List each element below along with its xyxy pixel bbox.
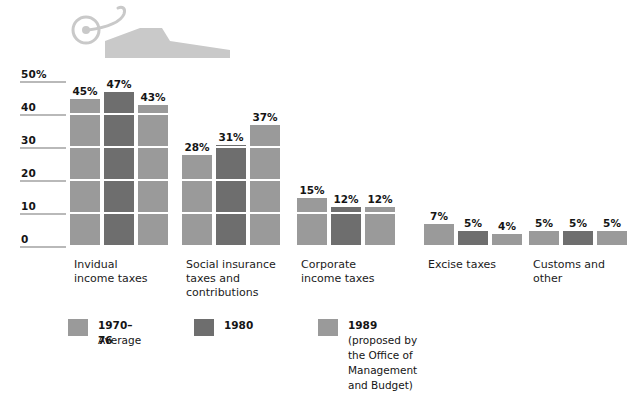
legend-swatch [318,319,338,336]
bar[interactable]: 15% [297,198,327,248]
bar-segment [529,231,559,246]
bar-segment [182,214,212,245]
bar[interactable]: 7% [424,224,454,247]
bar-segment [182,155,212,179]
bar-value-label: 12% [333,194,358,205]
bar[interactable]: 28% [182,155,212,247]
bar-segment [70,181,100,212]
bar[interactable]: 45% [70,99,100,248]
bar-segment [250,148,280,179]
y-axis-tick-label: 50% [21,68,47,80]
legend-label: 1980 [224,318,253,333]
bar-segment [216,181,246,212]
bar-value-label: 31% [218,132,243,143]
bar-segment [365,207,395,212]
bar-segment [216,145,246,146]
bar[interactable]: 12% [365,207,395,247]
bar-value-label: 15% [299,185,324,196]
bar-segment [331,207,361,212]
category-label: Social insurance taxes and contributions [186,258,276,300]
y-axis-tick-label: 10 [21,200,36,212]
legend-swatch [194,319,214,336]
bar-segment [331,214,361,245]
bar-value-label: 7% [430,211,448,222]
bar-segment [138,214,168,245]
bar-segment [216,148,246,179]
bar-segment [70,99,100,114]
bar[interactable]: 4% [492,234,522,247]
bar[interactable]: 5% [563,231,593,248]
bar-value-label: 47% [106,79,131,90]
bar-segment [138,181,168,212]
legend-label: 1989 [348,318,377,333]
bar-value-label: 28% [184,142,209,153]
bar-segment [138,148,168,179]
y-axis-tick-rule [20,147,66,149]
y-axis-tick-rule [20,213,66,215]
bar-segment [70,148,100,179]
bar[interactable]: 12% [331,207,361,247]
bar[interactable]: 37% [250,125,280,247]
bar-segment [104,115,134,146]
bar-segment [70,214,100,245]
bar[interactable]: 5% [458,231,488,248]
bar-segment [297,198,327,213]
bar-segment [492,234,522,245]
legend-sublabel: (proposed by the Office of Management an… [348,333,417,393]
bar[interactable]: 43% [138,105,168,247]
category-label: Excise taxes [428,258,496,272]
bar-value-label: 5% [464,218,482,229]
y-axis-tick-rule [20,81,66,83]
y-axis-tick-rule [20,114,66,116]
y-axis-tick-label: 40 [21,101,36,113]
bar-value-label: 5% [535,218,553,229]
bar-segment [297,214,327,245]
bar-segment [250,125,280,146]
bar-segment [563,231,593,246]
bar-segment [424,224,454,245]
bar-segment [138,115,168,146]
bar[interactable]: 31% [216,145,246,247]
bar-segment [70,115,100,146]
bar-segment [182,181,212,212]
category-label: Customs and other [533,258,605,286]
bar-segment [104,181,134,212]
bar-value-label: 43% [140,92,165,103]
bar[interactable]: 47% [104,92,134,247]
category-label: Corporate income taxes [301,258,375,286]
bar-segment [104,148,134,179]
bar[interactable]: 5% [529,231,559,248]
legend-sublabel: Average [98,333,141,348]
bar-segment [138,105,168,113]
bar-segment [250,181,280,212]
legend-swatch [68,319,88,336]
y-axis-tick-rule [20,180,66,182]
bar-segment [365,214,395,245]
bar-value-label: 4% [498,221,516,232]
y-axis-tick-rule [20,246,66,248]
bar-segment [597,231,627,246]
y-axis-tick-label: 30 [21,134,36,146]
bar-segment [250,214,280,245]
bar-segment [458,231,488,246]
bar-segment [216,214,246,245]
y-axis-tick-label: 20 [21,167,36,179]
category-label: Invidual income taxes [74,258,148,286]
y-axis-tick-label: 0 [21,233,29,245]
bar-value-label: 5% [569,218,587,229]
bar-segment [104,92,134,113]
bar-value-label: 45% [72,86,97,97]
bar-segment [104,214,134,245]
bar[interactable]: 5% [597,231,627,248]
bar-value-label: 37% [252,112,277,123]
bar-value-label: 12% [367,194,392,205]
bar-value-label: 5% [603,218,621,229]
